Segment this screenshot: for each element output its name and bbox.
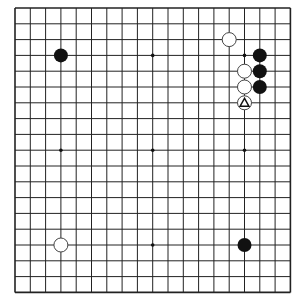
- black-stone[interactable]: [253, 64, 267, 78]
- white-stone[interactable]: [238, 64, 252, 78]
- star-point: [151, 54, 155, 58]
- star-point: [243, 54, 247, 58]
- black-stone[interactable]: [253, 48, 267, 62]
- star-point: [151, 148, 155, 152]
- white-stone[interactable]: [222, 33, 236, 47]
- star-point: [59, 148, 63, 152]
- white-stone[interactable]: [54, 238, 68, 252]
- stones-layer[interactable]: [54, 33, 267, 252]
- go-board[interactable]: [0, 0, 299, 304]
- white-stone[interactable]: [238, 80, 252, 94]
- black-stone[interactable]: [253, 80, 267, 94]
- black-stone[interactable]: [238, 238, 252, 252]
- star-point: [243, 148, 247, 152]
- star-point: [151, 243, 155, 247]
- white-stone[interactable]: [238, 96, 252, 110]
- black-stone[interactable]: [54, 48, 68, 62]
